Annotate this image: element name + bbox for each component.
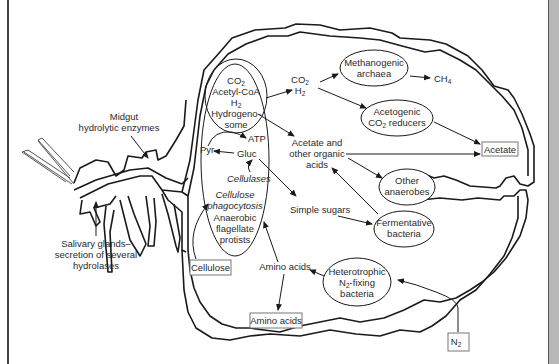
acetate-organic-line3: acids [306, 159, 328, 170]
arrow-aminoacids-to-protist [264, 222, 278, 262]
amino-acids-label: Amino acids [259, 261, 311, 272]
arrow-aminoacids-to-box [278, 274, 284, 310]
arrow-acetogenic-to-acetate [434, 122, 480, 144]
acetogenic-reducers-node: Acetogenic CO2 reducers [361, 100, 433, 136]
acetate-box: Acetate [482, 142, 518, 156]
arrow-methanogenic-to-ch4 [410, 76, 430, 78]
svg-text:Acetyl-CoA: Acetyl-CoA [212, 86, 260, 97]
heterotrophic-n2-fixing-node: Heterotrophic N2-fixing bacteria [323, 258, 391, 306]
cellulose-box: Cellulose [190, 260, 231, 275]
termite-gut-diagram: CO2 Acetyl-CoA H2 Hydrogeno- some ATP Py… [0, 0, 559, 364]
salivary-label-line3: hydrolases [73, 260, 119, 271]
atp-label: ATP [248, 133, 266, 144]
termite-midgut-lower [80, 176, 182, 198]
termite-leg-3 [146, 196, 156, 246]
svg-text:Acetogenic: Acetogenic [373, 106, 420, 117]
salivary-label-line1: Salivary glands– [61, 238, 131, 249]
midgut-label-line2: hydrolytic enzymes [79, 122, 160, 133]
arrow-organic-acids-to-other [348, 158, 382, 178]
simple-sugars-label: Simple sugars [290, 204, 350, 215]
methanogenic-archaea-node: Methanogenic archaea [340, 50, 408, 86]
arrow-co2-to-methanogenic [320, 74, 338, 82]
ch4-label: CH4 [434, 73, 452, 85]
protist-name-line1: Anaerobic [214, 212, 257, 223]
svg-text:Cellulose: Cellulose [191, 262, 230, 273]
svg-text:Other: Other [395, 175, 419, 186]
cellulose-phagocytosis-line2: phagocytosis [206, 200, 263, 211]
arrow-sugars-to-fermentative [338, 216, 372, 224]
n2-box: N2 [448, 333, 469, 351]
co2-h2-label: CO2 H2 [291, 74, 309, 97]
svg-text:Fermentative: Fermentative [376, 217, 431, 228]
arrow-midgut-pointer [131, 136, 148, 158]
arrow-n2-to-heterotrophic [398, 280, 458, 332]
salivary-label-line2: secretion of several [55, 249, 137, 260]
svg-text:bacteria: bacteria [340, 288, 375, 299]
svg-text:Acetate: Acetate [484, 144, 516, 155]
arrow-cellulose-to-phagocytosis [193, 204, 208, 259]
svg-text:Amino acids: Amino acids [250, 315, 302, 326]
svg-text:Methanogenic: Methanogenic [344, 57, 404, 68]
svg-text:Heterotrophic: Heterotrophic [328, 266, 385, 277]
acetate-organic-line1: Acetate and [292, 137, 343, 148]
other-anaerobes-node: Other anaerobes [379, 169, 435, 205]
termite-antennae [22, 138, 74, 184]
svg-text:H2: H2 [295, 85, 306, 97]
svg-text:some: some [224, 119, 247, 130]
arrow-cellulases-to-gluc [248, 160, 252, 172]
arrow-co2-to-acetogenic [318, 88, 366, 108]
svg-text:Hydrogeno-: Hydrogeno- [211, 108, 261, 119]
amino-acids-box: Amino acids [250, 313, 302, 328]
cellulases-label: Cellulases [227, 173, 271, 184]
arrow-gluc-to-pyr [214, 151, 234, 153]
fermentative-bacteria-node: Fermentative bacteria [374, 211, 434, 247]
svg-text:CO2 reducers: CO2 reducers [368, 117, 426, 129]
protist-name-line3: protists [220, 234, 251, 245]
pyr-label: Pyr [200, 144, 214, 155]
midgut-label-line1: Midgut [110, 111, 139, 122]
protist-name-line2: flagellate [216, 223, 254, 234]
termite-leg-5 [162, 190, 186, 252]
arrow-hydrogenosome-to-co2h2 [266, 90, 292, 98]
arrow-heterotrophic-to-aminoacids [310, 270, 324, 276]
acetate-organic-line2: other organic [289, 148, 345, 159]
gluc-label: Gluc [237, 148, 257, 159]
termite-mouthparts [80, 196, 116, 226]
cellulose-phagocytosis-line1: Cellulose [215, 189, 254, 200]
svg-text:anaerobes: anaerobes [385, 186, 430, 197]
svg-text:archaea: archaea [357, 68, 392, 79]
svg-text:bacteria: bacteria [387, 228, 422, 239]
hydrogenosome-labels: CO2 Acetyl-CoA H2 Hydrogeno- some [211, 75, 261, 130]
